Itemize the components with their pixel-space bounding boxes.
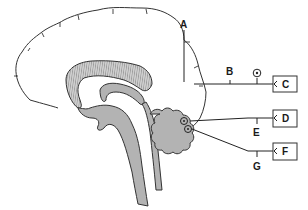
label-f: F bbox=[282, 146, 288, 157]
target-marker-dot bbox=[256, 72, 258, 74]
brain-diagram: A B C D E F G bbox=[0, 0, 308, 210]
marker-circle-1-dot bbox=[183, 120, 185, 122]
label-a: A bbox=[180, 19, 187, 30]
brainstem bbox=[78, 105, 148, 206]
label-d: D bbox=[282, 113, 289, 124]
pointer-lines bbox=[184, 30, 274, 157]
label-c: C bbox=[282, 79, 289, 90]
cerebellum bbox=[150, 108, 194, 154]
label-b: B bbox=[226, 66, 233, 77]
marker-circle-2-dot bbox=[187, 128, 189, 130]
label-e: E bbox=[253, 127, 260, 138]
label-g: G bbox=[253, 161, 261, 172]
